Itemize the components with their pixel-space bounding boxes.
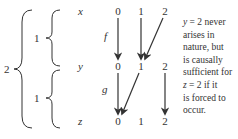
annotation-line: occur. bbox=[183, 104, 238, 117]
annotation-text: y = 2 neverarises innature, butis causal… bbox=[183, 16, 238, 117]
annotation-line: is forced to bbox=[183, 92, 238, 105]
inner-group-label-top: 1 bbox=[34, 32, 40, 44]
outer-brace bbox=[14, 10, 32, 128]
function-f-label: f bbox=[104, 30, 109, 42]
variable-x: x bbox=[77, 5, 83, 17]
variable-z: z bbox=[77, 115, 83, 127]
arrow-f-2-to-1 bbox=[145, 18, 163, 59]
annotation-line: is causally bbox=[183, 54, 238, 67]
annotation-line: sufficient for bbox=[183, 66, 238, 79]
annotation-line: y = 2 never bbox=[183, 16, 238, 29]
value-z-1: 1 bbox=[138, 115, 144, 127]
outer-group-label: 2 bbox=[4, 63, 10, 75]
inner-group-label-bottom: 1 bbox=[34, 92, 40, 104]
value-y-1: 1 bbox=[138, 60, 144, 72]
value-y-2: 2 bbox=[162, 60, 168, 72]
function-g-label: g bbox=[102, 83, 108, 95]
value-y-0: 0 bbox=[115, 60, 121, 72]
value-x-2: 2 bbox=[162, 5, 168, 17]
value-z-2: 2 bbox=[162, 115, 168, 127]
value-z-0: 0 bbox=[115, 115, 121, 127]
inner-brace-top bbox=[46, 10, 60, 66]
value-x-1: 1 bbox=[138, 5, 144, 17]
value-x-0: 0 bbox=[115, 5, 121, 17]
annotation-line: z = 2 if it bbox=[183, 79, 238, 92]
annotation-line: nature, but bbox=[183, 41, 238, 54]
arrow-g-1-to-0 bbox=[122, 73, 139, 114]
variable-y: y bbox=[77, 60, 83, 72]
annotation-line: arises in bbox=[183, 29, 238, 42]
inner-brace-bottom bbox=[46, 70, 60, 128]
